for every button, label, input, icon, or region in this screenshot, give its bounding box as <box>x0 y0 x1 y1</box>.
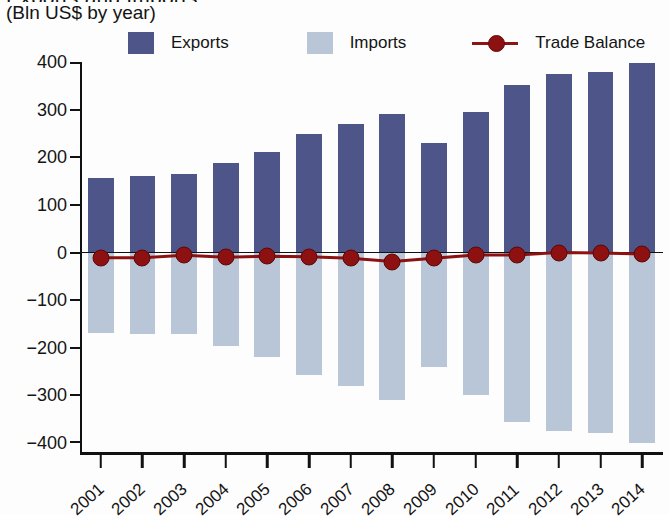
y-axis-tick-label: 200 <box>37 147 67 168</box>
x-axis-tick-label: 2006 <box>275 479 316 519</box>
bar-exports[interactable] <box>338 124 364 252</box>
bar-group[interactable] <box>338 62 364 443</box>
y-axis-tick <box>70 204 80 206</box>
bar-imports[interactable] <box>588 253 614 433</box>
x-axis-tick <box>474 452 477 468</box>
legend-item-exports[interactable]: Exports <box>128 32 229 54</box>
x-axis-tick-label: 2007 <box>316 479 357 519</box>
imports-swatch-icon <box>307 32 333 54</box>
x-axis-left-cap <box>80 443 82 455</box>
y-axis-top-cap <box>70 62 80 64</box>
bar-imports[interactable] <box>463 253 489 396</box>
bar-exports[interactable] <box>379 114 405 253</box>
y-axis-tick <box>70 156 80 158</box>
bar-group[interactable] <box>546 62 572 443</box>
bar-exports[interactable] <box>130 176 156 252</box>
x-axis-tick <box>599 452 602 468</box>
x-axis-tick-label: 2014 <box>608 479 649 519</box>
x-axis-tick <box>308 452 311 468</box>
x-axis-tick-label: 2008 <box>358 479 399 519</box>
x-axis-tick-label: 2002 <box>108 479 149 519</box>
y-axis-tick-label: 300 <box>37 99 67 120</box>
bar-imports[interactable] <box>379 253 405 401</box>
bar-group[interactable] <box>588 62 614 443</box>
x-axis-tick-label: 2001 <box>67 479 108 519</box>
x-axis-tick-label: 2005 <box>233 479 274 519</box>
y-axis-tick <box>70 109 80 111</box>
y-axis-bottom-cap <box>70 441 80 443</box>
y-axis-tick <box>70 394 80 396</box>
y-axis-tick-label: −100 <box>26 290 67 311</box>
bar-exports[interactable] <box>463 112 489 252</box>
y-axis-tick <box>70 252 80 254</box>
x-axis-tick-label: 2012 <box>525 479 566 519</box>
x-axis-tick <box>183 452 186 468</box>
legend-label-trade-balance: Trade Balance <box>535 33 645 53</box>
bar-group[interactable] <box>296 62 322 443</box>
y-axis-tick-label: −300 <box>26 385 67 406</box>
y-axis-tick-label: 0 <box>57 242 67 263</box>
bar-imports[interactable] <box>504 253 530 423</box>
legend-marker-dot-icon <box>488 35 505 52</box>
bar-exports[interactable] <box>213 163 239 252</box>
plot-area: 4003002001000−100−200−300−400 <box>80 62 663 443</box>
x-axis-tick <box>516 452 519 468</box>
bar-group[interactable] <box>463 62 489 443</box>
bar-imports[interactable] <box>213 253 239 347</box>
x-axis-tick-label: 2011 <box>483 480 524 519</box>
bar-exports[interactable] <box>88 178 114 253</box>
x-axis-line <box>80 452 663 455</box>
legend-item-imports[interactable]: Imports <box>307 32 407 54</box>
bar-imports[interactable] <box>629 253 655 444</box>
bar-exports[interactable] <box>546 74 572 252</box>
bar-imports[interactable] <box>546 253 572 431</box>
bar-imports[interactable] <box>338 253 364 387</box>
x-axis-tick-label: 2013 <box>566 479 607 519</box>
bar-exports[interactable] <box>588 72 614 252</box>
bar-imports[interactable] <box>130 253 156 334</box>
chart-subtitle: (Bln US$ by year) <box>6 2 156 24</box>
bar-group[interactable] <box>130 62 156 443</box>
bar-group[interactable] <box>254 62 280 443</box>
x-axis-tick <box>349 452 352 468</box>
legend-label-exports: Exports <box>171 33 229 53</box>
x-axis-tick-label: 2003 <box>150 479 191 519</box>
x-axis-tick <box>141 452 144 468</box>
bar-group[interactable] <box>88 62 114 443</box>
x-axis-tick <box>433 452 436 468</box>
bar-exports[interactable] <box>171 174 197 253</box>
x-axis-tick <box>558 452 561 468</box>
x-axis-tick <box>100 452 103 468</box>
y-axis-tick-label: 100 <box>37 194 67 215</box>
y-axis-tick <box>70 299 80 301</box>
bar-imports[interactable] <box>254 253 280 358</box>
x-axis-tick <box>391 452 394 468</box>
bar-imports[interactable] <box>88 253 114 333</box>
x-axis-tick <box>641 452 644 468</box>
x-axis-tick-label: 2004 <box>192 479 233 519</box>
trade-balance-line-icon <box>472 32 518 54</box>
legend-label-imports: Imports <box>350 33 407 53</box>
bar-imports[interactable] <box>171 253 197 334</box>
bar-exports[interactable] <box>254 152 280 253</box>
x-axis-tick-label: 2010 <box>441 479 482 519</box>
y-axis-tick-label: −200 <box>26 337 67 358</box>
x-axis-tick-label: 2009 <box>400 479 441 519</box>
bar-imports[interactable] <box>296 253 322 375</box>
bar-group[interactable] <box>421 62 447 443</box>
exports-swatch-icon <box>128 32 154 54</box>
bar-exports[interactable] <box>504 85 530 252</box>
bar-exports[interactable] <box>421 143 447 252</box>
bar-exports[interactable] <box>296 134 322 252</box>
bar-group[interactable] <box>629 62 655 443</box>
chart-legend: Exports Imports Trade Balance <box>128 30 645 56</box>
bar-exports[interactable] <box>629 63 655 252</box>
bar-group[interactable] <box>171 62 197 443</box>
legend-item-trade-balance[interactable]: Trade Balance <box>472 32 645 54</box>
bar-group[interactable] <box>504 62 530 443</box>
bar-group[interactable] <box>213 62 239 443</box>
y-axis-tick <box>70 347 80 349</box>
bar-imports[interactable] <box>421 253 447 368</box>
bar-group[interactable] <box>379 62 405 443</box>
